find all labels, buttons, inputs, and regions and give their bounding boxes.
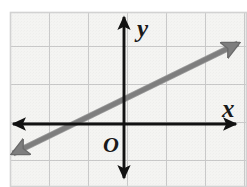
y-axis-label: y	[134, 15, 149, 42]
x-axis-label: x	[221, 95, 235, 122]
graph-canvas: y x O	[0, 0, 247, 187]
coordinate-plane-figure: y x O	[0, 0, 247, 187]
origin-label: O	[103, 132, 119, 157]
